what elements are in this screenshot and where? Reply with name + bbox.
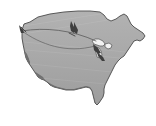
map-figure: Map of the contiguous United States Gray… bbox=[0, 0, 156, 126]
us-map-svg bbox=[0, 0, 156, 126]
contiguous-united-states-landmass bbox=[22, 11, 145, 105]
